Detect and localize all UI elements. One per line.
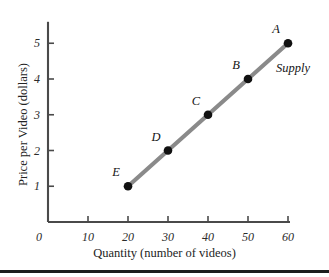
x-tick-label-30: 30	[162, 231, 174, 243]
x-tick-label-50: 50	[242, 231, 254, 243]
point-label-b: B	[232, 59, 240, 72]
point-label-c: C	[192, 95, 200, 108]
x-axis-title: Quantity (number of videos)	[0, 246, 329, 261]
x-tick-label-0: 0	[36, 231, 42, 243]
data-point-d	[164, 146, 173, 155]
x-tick-label-60: 60	[282, 231, 294, 243]
data-point-a	[284, 39, 293, 48]
y-axis-title: Price per Video (dollars)	[16, 35, 31, 215]
point-label-e: E	[112, 166, 120, 179]
footer-divider	[0, 270, 329, 273]
x-tick-label-20: 20	[122, 231, 134, 243]
supply-curve-figure: 010203040506012345 EDCBA Supply Quantity…	[0, 0, 329, 277]
series-label-supply: Supply	[276, 62, 310, 75]
data-point-e	[124, 182, 133, 191]
point-label-d: D	[151, 130, 160, 143]
data-point-c	[204, 110, 213, 119]
x-tick-label-10: 10	[82, 231, 94, 243]
point-label-a: A	[272, 23, 280, 36]
x-tick-label-40: 40	[202, 231, 214, 243]
data-point-b	[244, 75, 253, 84]
axes-group	[48, 22, 290, 222]
axis-ticks-group	[48, 43, 288, 222]
